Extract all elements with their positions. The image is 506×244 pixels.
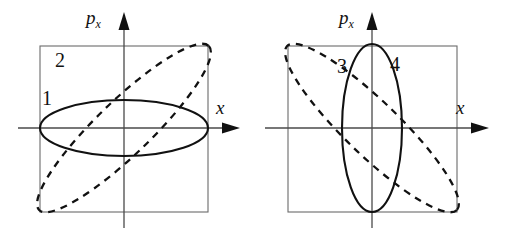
p-axis-label-left: px [86,8,101,27]
curve-label-4: 4 [390,54,400,74]
p-axis-label-subscript-right: x [349,17,354,31]
x-axis-arrowhead-right [471,123,489,134]
p-axis-label-right: px [339,8,354,27]
panel-left-drawing [0,0,253,244]
x-axis-arrowhead-left [222,123,240,134]
x-axis-label-right: x [456,98,464,117]
curve-label-2: 2 [55,50,65,70]
phase-space-panel-right: px x 3 4 [253,0,506,244]
p-axis-label-subscript-left: x [96,17,101,31]
curve-label-1: 1 [42,88,52,108]
p-axis-arrowhead-left [119,12,130,30]
panel-right-drawing [253,0,506,244]
phase-space-panel-left: px x 1 2 [0,0,253,244]
curve-label-3: 3 [337,56,347,76]
x-axis-label-left: x [216,98,224,117]
phase-space-figure: px x 1 2 px x 3 4 [0,0,506,244]
p-axis-arrowhead-right [367,12,378,30]
